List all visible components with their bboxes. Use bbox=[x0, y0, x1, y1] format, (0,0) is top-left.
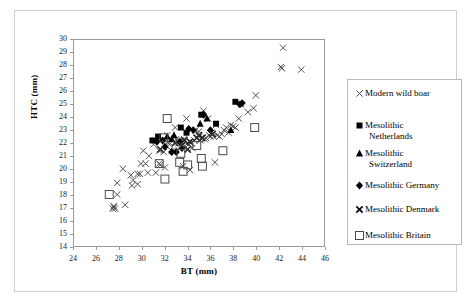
chart-legend: Modern wild boarMesolithicNetherlandsMes… bbox=[347, 79, 462, 245]
x-tick-mark bbox=[325, 247, 326, 250]
data-point bbox=[145, 169, 151, 175]
y-tick-label: 23 bbox=[35, 126, 67, 134]
x-tick-mark bbox=[279, 247, 280, 250]
y-tick-label: 19 bbox=[35, 178, 67, 186]
y-tick-label: 16 bbox=[35, 217, 67, 225]
x-axis-title: BT (mm) bbox=[73, 266, 325, 276]
data-point bbox=[197, 154, 205, 162]
y-tick-label: 21 bbox=[35, 152, 67, 160]
legend-marker-filled-square-icon bbox=[354, 120, 365, 131]
y-tick-label: 14 bbox=[35, 243, 67, 251]
legend-item-4[interactable]: Mesolithic Denmark bbox=[354, 204, 439, 215]
data-point bbox=[134, 181, 140, 187]
data-point bbox=[236, 115, 242, 121]
plot-area bbox=[73, 39, 325, 247]
legend-item-3[interactable]: Mesolithic Germany bbox=[354, 180, 439, 191]
legend-label: MesolithicNetherlands bbox=[365, 120, 412, 142]
data-point bbox=[128, 172, 134, 178]
data-point bbox=[163, 115, 171, 123]
y-tick-label: 26 bbox=[35, 87, 67, 95]
data-point bbox=[245, 109, 251, 115]
data-point bbox=[184, 146, 190, 152]
y-tick-label: 29 bbox=[35, 48, 67, 56]
data-point bbox=[122, 202, 128, 208]
data-point bbox=[120, 166, 126, 172]
legend-glyph bbox=[356, 90, 362, 96]
y-tick-label: 20 bbox=[35, 165, 67, 173]
data-point bbox=[172, 124, 178, 130]
scatter-canvas bbox=[74, 40, 324, 246]
data-point bbox=[105, 191, 113, 199]
data-point bbox=[253, 92, 259, 98]
legend-label: Modern wild boar bbox=[365, 88, 430, 99]
legend-label: MesolithicSwitzerland bbox=[365, 148, 412, 170]
y-tick-label: 30 bbox=[35, 35, 67, 43]
series-modern-wild-boar bbox=[109, 45, 304, 212]
y-tick-label: 27 bbox=[35, 74, 67, 82]
legend-item-1[interactable]: MesolithicNetherlands bbox=[354, 120, 412, 142]
data-point bbox=[251, 124, 259, 132]
data-point bbox=[178, 125, 184, 131]
legend-marker-bold-x-icon bbox=[354, 204, 365, 215]
x-tick-mark bbox=[119, 247, 120, 250]
x-tick-mark bbox=[256, 247, 257, 250]
legend-item-2[interactable]: MesolithicSwitzerland bbox=[354, 148, 412, 170]
data-point bbox=[111, 203, 117, 209]
y-tick-label: 24 bbox=[35, 113, 67, 121]
y-tick-label: 28 bbox=[35, 61, 67, 69]
x-tick-mark bbox=[210, 247, 211, 250]
data-point bbox=[129, 182, 135, 188]
data-point bbox=[142, 160, 148, 166]
data-point bbox=[197, 120, 204, 127]
legend-label: Mesolithic Denmark bbox=[365, 204, 439, 215]
data-point bbox=[250, 105, 256, 111]
data-point bbox=[183, 115, 189, 121]
x-tick-mark bbox=[233, 247, 234, 250]
y-tick-label: 18 bbox=[35, 191, 67, 199]
y-tick-label: 15 bbox=[35, 230, 67, 238]
data-point bbox=[280, 45, 286, 51]
x-tick-mark bbox=[73, 247, 74, 250]
x-tick-mark bbox=[188, 247, 189, 250]
x-tick-mark bbox=[165, 247, 166, 250]
data-point bbox=[114, 191, 120, 197]
data-point bbox=[187, 167, 193, 173]
figure-frame: HTC (mm) BT (mm) 14151617181920212223242… bbox=[14, 10, 457, 292]
legend-glyph bbox=[356, 206, 362, 212]
legend-label: Mesolithic Germany bbox=[365, 180, 439, 191]
data-point bbox=[140, 148, 146, 154]
x-tick-label: 46 bbox=[311, 255, 339, 263]
legend-marker-filled-triangle-icon bbox=[354, 148, 365, 159]
legend-item-5[interactable]: Mesolithic Britain bbox=[354, 230, 431, 241]
x-tick-mark bbox=[142, 247, 143, 250]
data-point bbox=[198, 162, 206, 170]
y-tick-label: 25 bbox=[35, 100, 67, 108]
data-point bbox=[153, 169, 159, 175]
legend-marker-filled-diamond-icon bbox=[354, 180, 365, 191]
data-point bbox=[194, 135, 200, 141]
y-tick-label: 17 bbox=[35, 204, 67, 212]
data-point bbox=[213, 121, 219, 127]
data-point bbox=[161, 175, 169, 183]
data-point bbox=[212, 159, 218, 165]
legend-marker-thin-x-icon bbox=[354, 88, 365, 99]
legend-glyph bbox=[356, 232, 364, 240]
legend-glyph bbox=[357, 123, 363, 129]
legend-glyph bbox=[356, 150, 363, 157]
x-tick-mark bbox=[96, 247, 97, 250]
data-point bbox=[298, 66, 304, 72]
legend-glyph bbox=[356, 182, 363, 190]
legend-label: Mesolithic Britain bbox=[365, 230, 431, 241]
y-tick-label: 22 bbox=[35, 139, 67, 147]
data-point bbox=[219, 147, 227, 155]
x-tick-mark bbox=[302, 247, 303, 250]
legend-item-0[interactable]: Modern wild boar bbox=[354, 88, 430, 99]
data-point bbox=[146, 153, 152, 159]
data-point bbox=[114, 180, 120, 186]
legend-marker-open-square-icon bbox=[354, 230, 365, 241]
